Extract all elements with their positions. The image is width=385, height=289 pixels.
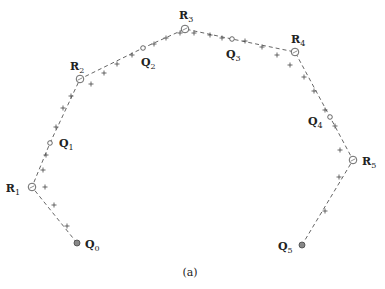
plus-mark	[208, 33, 213, 38]
point-r3: R3	[179, 9, 193, 33]
midpoint-marker-icon	[74, 240, 80, 246]
midpoint-marker-icon	[48, 141, 53, 146]
point-q0: Q0	[74, 238, 100, 253]
curve-sample-marks	[41, 31, 343, 229]
plus-mark	[164, 36, 169, 41]
plus-mark	[302, 75, 307, 80]
point-label: Q3	[226, 48, 241, 63]
point-label: R1	[6, 182, 20, 197]
point-label: R5	[362, 155, 376, 170]
diagram-figure: Q0R1Q1R2Q2R3Q3R4Q4R5Q5 (a)	[0, 0, 385, 289]
point-label: Q1	[59, 137, 74, 152]
plus-mark	[54, 125, 59, 130]
plus-mark	[288, 63, 293, 68]
point-r2: R2	[70, 60, 84, 83]
plus-mark	[65, 224, 70, 229]
plus-mark	[338, 148, 343, 153]
point-label: Q5	[278, 240, 293, 255]
plus-mark	[102, 71, 107, 76]
plus-mark	[89, 82, 94, 87]
point-q3: Q3	[226, 37, 241, 63]
point-label: R3	[179, 9, 193, 24]
midpoint-marker-icon	[328, 115, 333, 120]
point-q2: Q2	[141, 46, 156, 71]
point-label: R2	[70, 60, 84, 75]
midpoint-marker-icon	[141, 46, 146, 51]
point-r4: R4	[291, 33, 305, 56]
plus-mark	[52, 203, 57, 208]
plus-mark	[312, 89, 317, 94]
point-q5: Q5	[278, 240, 305, 255]
point-q4: Q4	[308, 115, 332, 130]
plus-mark	[243, 39, 248, 44]
plus-mark	[41, 168, 46, 173]
plus-mark	[69, 94, 74, 99]
control-points: Q0R1Q1R2Q2R3Q3R4Q4R5Q5	[6, 9, 377, 255]
plus-mark	[61, 106, 66, 111]
plus-mark	[337, 175, 342, 180]
plus-mark	[333, 124, 338, 129]
plus-mark	[44, 153, 49, 158]
point-label: Q4	[308, 115, 323, 130]
plus-mark	[130, 53, 135, 58]
plus-mark	[275, 53, 280, 58]
point-label: Q2	[141, 56, 156, 71]
figure-caption: (a)	[182, 266, 197, 279]
control-polygon	[32, 29, 353, 245]
point-label: Q0	[85, 238, 100, 253]
plus-mark	[43, 185, 48, 190]
diagram-canvas: Q0R1Q1R2Q2R3Q3R4Q4R5Q5 (a)	[0, 0, 385, 289]
plus-mark	[115, 62, 120, 67]
plus-mark	[220, 36, 225, 41]
point-r5: R5	[349, 155, 376, 170]
point-r1: R1	[6, 182, 36, 197]
midpoint-marker-icon	[299, 242, 305, 248]
point-label: R4	[291, 33, 305, 48]
midpoint-marker-icon	[230, 37, 235, 42]
point-q1: Q1	[48, 137, 74, 152]
